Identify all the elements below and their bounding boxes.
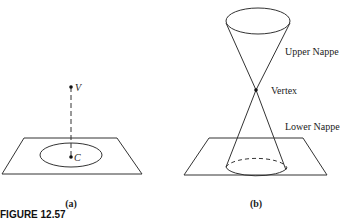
center-point-c: [69, 155, 73, 159]
figure-canvas: V C (a) Upper Nappe Vertex Lower Nappe (…: [0, 0, 342, 220]
lower-right-edge: [256, 90, 286, 170]
vertex-point-v: [69, 85, 73, 89]
label-lower-nappe: Lower Nappe: [285, 121, 340, 132]
vertex-point: [254, 88, 258, 92]
figure-number: FIGURE 12.57: [0, 209, 66, 220]
panel-a: V C (a): [2, 82, 142, 210]
label-c: C: [74, 152, 81, 163]
panel-b: Upper Nappe Vertex Lower Nappe (b): [184, 8, 340, 210]
lower-ellipse-front: [226, 167, 287, 176]
caption-b: (b): [250, 198, 262, 210]
upper-ellipse: [226, 8, 290, 34]
plane-b: [184, 138, 327, 175]
lower-ellipse-back-dashed: [226, 158, 287, 168]
caption-a: (a): [65, 198, 77, 210]
label-vertex: Vertex: [271, 85, 297, 96]
label-v: V: [75, 82, 83, 93]
label-upper-nappe: Upper Nappe: [285, 46, 339, 57]
lower-left-edge: [226, 90, 256, 167]
